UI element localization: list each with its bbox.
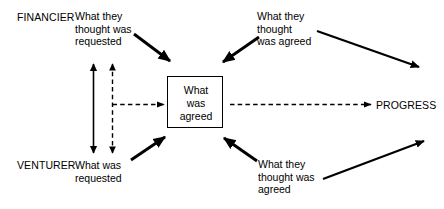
role-label-venturer: VENTURER [17, 159, 76, 172]
venturer-agreed-to-progress-arrow [323, 141, 424, 179]
center-box-line1: What [168, 84, 224, 97]
venturer-requested-to-box-arrow [131, 137, 165, 160]
financier-requested-to-box-arrow [134, 34, 170, 61]
label-financier-agreed: What they thought was agreed [257, 10, 311, 48]
role-label-financier: FINANCIER [17, 11, 75, 24]
center-box: What was agreed [167, 76, 223, 128]
center-box-line3: agreed [168, 110, 224, 123]
financier-agreed-to-box-arrow [223, 37, 259, 62]
label-venturer-agreed: What they thought was agreed [258, 158, 315, 196]
label-progress: PROGRESS [376, 99, 436, 112]
label-financier-requested: What they thought was requested [75, 10, 132, 48]
label-venturer-requested: What was requested [75, 159, 122, 184]
center-box-line2: was [168, 97, 224, 110]
diagram-canvas: What was agreed FINANCIER VENTURER What … [0, 0, 444, 209]
venturer-agreed-to-box-arrow [224, 138, 257, 161]
financier-agreed-to-progress-arrow [317, 31, 419, 67]
